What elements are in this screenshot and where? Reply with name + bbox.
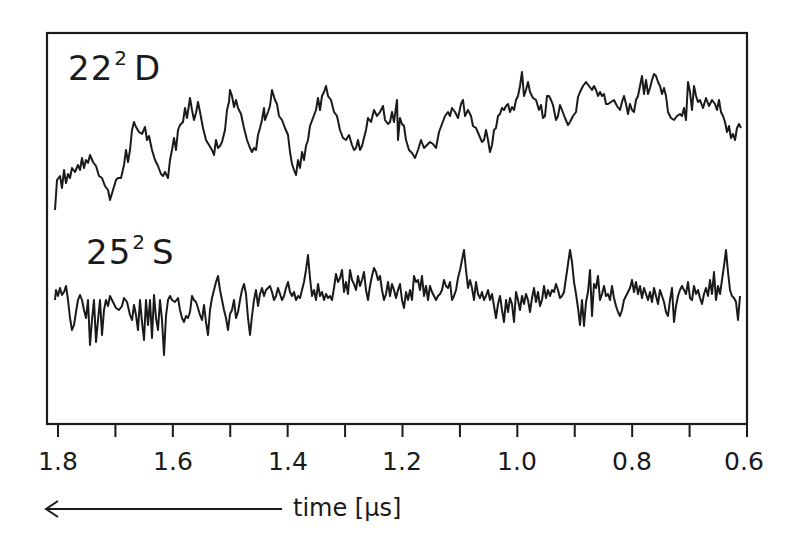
series-label-superscript: 2 bbox=[132, 230, 146, 254]
tick-label-1-2: 1.2 bbox=[382, 447, 422, 476]
tick-label-1-4: 1.4 bbox=[268, 447, 308, 476]
tick-label-1-6: 1.6 bbox=[153, 447, 193, 476]
series-label-22-2-d: 222D bbox=[68, 48, 161, 88]
time-direction-arrow bbox=[46, 501, 282, 517]
series-label-suffix: S bbox=[152, 232, 175, 272]
series-label-superscript: 2 bbox=[114, 46, 128, 70]
series-label-25-2-s: 252S bbox=[86, 232, 175, 272]
x-axis-label: time [µs] bbox=[293, 494, 401, 522]
x-axis-ticks bbox=[58, 424, 747, 437]
series-label-main: 22 bbox=[68, 48, 113, 88]
tick-label-1-8: 1.8 bbox=[38, 447, 78, 476]
plot-frame bbox=[47, 33, 747, 424]
tick-label-0-8: 0.8 bbox=[612, 447, 652, 476]
trace-22-2-d bbox=[55, 72, 741, 210]
series-label-suffix: D bbox=[134, 48, 161, 88]
tick-label-1-0: 1.0 bbox=[497, 447, 537, 476]
series-label-main: 25 bbox=[86, 232, 131, 272]
tick-label-0-6: 0.6 bbox=[724, 447, 764, 476]
